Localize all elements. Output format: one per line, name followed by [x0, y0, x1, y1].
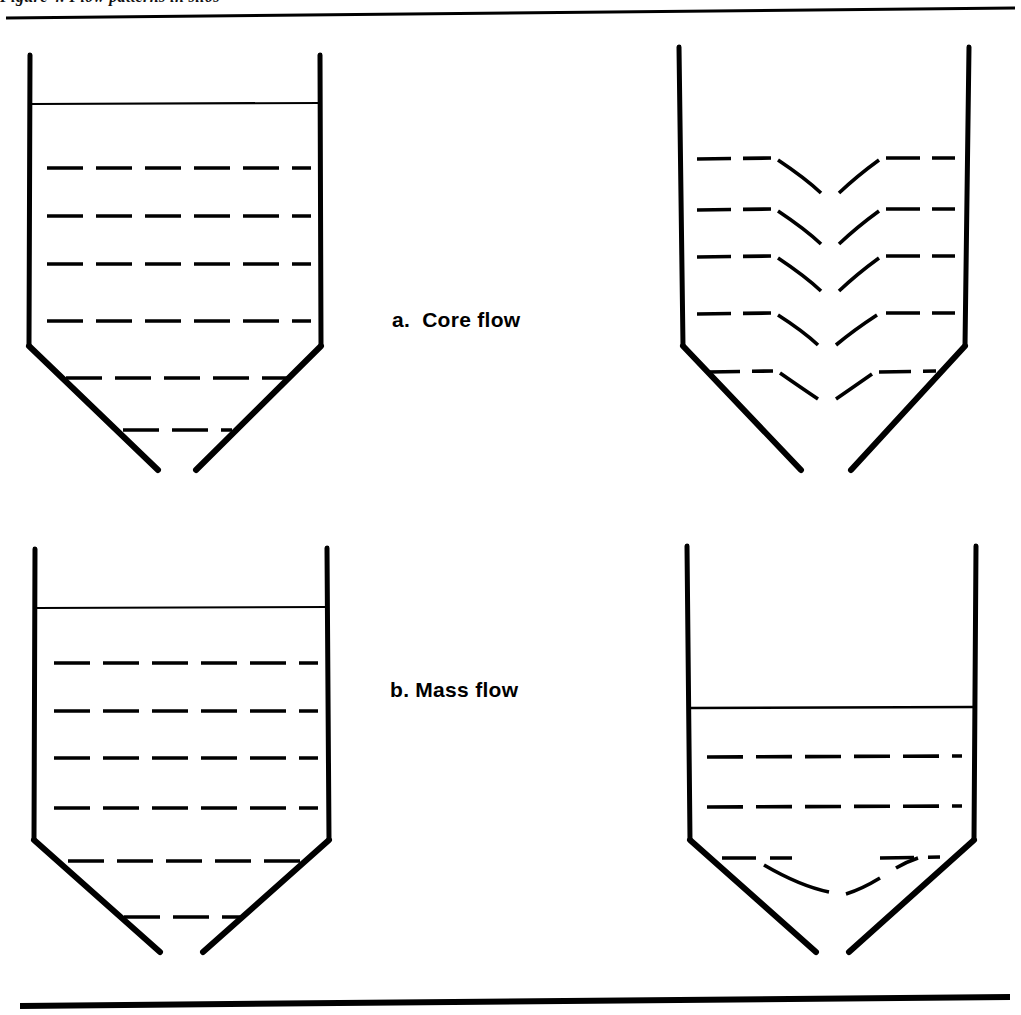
silo-wall-right [974, 546, 976, 840]
figure-page: Figure 4. Flow patterns in silos [0, 0, 1021, 1015]
silo-hopper-right [203, 840, 329, 952]
silo-flow-diagram [0, 0, 1021, 1015]
material-surface-line [36, 607, 328, 608]
silo-hopper-left [683, 346, 801, 470]
bottom-rule [20, 997, 1010, 1006]
top-rule [6, 8, 1015, 18]
flow-marker-layers [54, 663, 318, 917]
label-mass-flow-index: b. [390, 678, 409, 701]
silo-wall-left [679, 47, 683, 346]
label-mass-flow-text: Mass flow [415, 678, 518, 701]
silo-wall-left [34, 549, 35, 840]
label-core-flow-text: Core flow [422, 308, 520, 331]
silo-wall-left [687, 546, 690, 840]
material-surface-line [691, 707, 974, 708]
flow-marker-layer [697, 313, 955, 345]
silo-wall-left [29, 55, 30, 346]
flow-marker-layers [707, 756, 962, 894]
flow-marker-layer [707, 756, 962, 757]
silo-mass-flow-discharging [687, 546, 976, 952]
flow-marker-layer [697, 158, 955, 193]
silo-hopper-right [851, 346, 965, 470]
flow-marker-layer [697, 209, 955, 244]
flow-marker-layer [707, 806, 962, 807]
silo-wall-right [320, 55, 321, 346]
flow-marker-layers-v-shaped [697, 158, 955, 399]
flow-marker-layers [47, 168, 311, 430]
flow-marker-layer-curved [722, 857, 940, 894]
silo-hopper-left [34, 840, 160, 952]
flow-marker-layer [697, 256, 955, 291]
material-surface-line [31, 103, 320, 104]
silo-hopper-right [196, 346, 321, 470]
silo-mass-flow-initial [34, 548, 329, 952]
silo-hopper-left [29, 346, 158, 470]
silo-wall-right [965, 47, 969, 346]
silo-core-flow-discharging [679, 47, 969, 470]
silo-wall-right [327, 548, 329, 840]
label-core-flow: a.Core flow [392, 308, 521, 332]
label-mass-flow: b.Mass flow [390, 678, 518, 702]
silo-core-flow-initial [29, 55, 321, 470]
label-core-flow-index: a. [392, 308, 410, 331]
flow-marker-layer [708, 371, 936, 399]
